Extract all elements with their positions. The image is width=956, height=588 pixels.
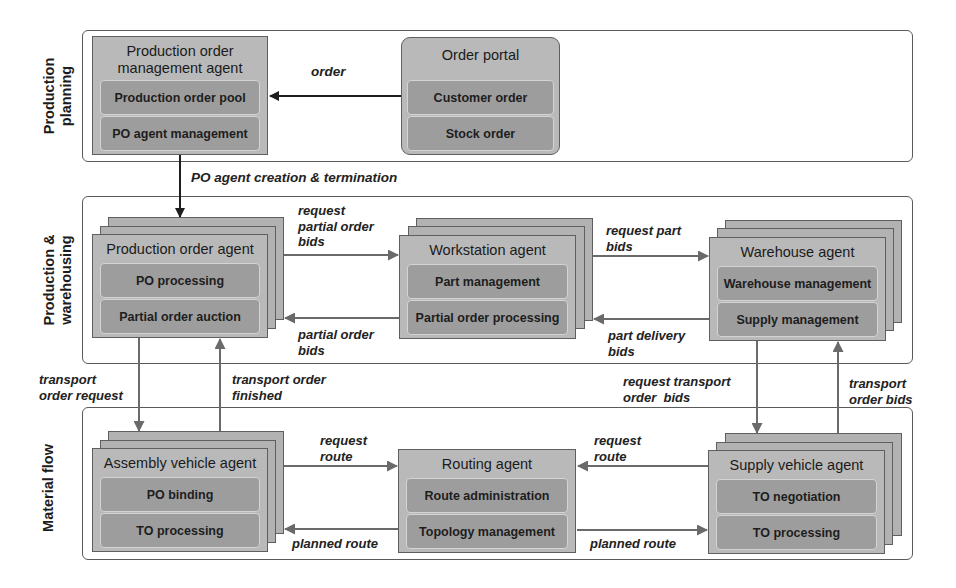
flow-label-line: bids xyxy=(608,344,685,360)
flow-label-line: order request xyxy=(39,388,123,404)
flow-label-request-route-left: request route xyxy=(320,433,367,464)
flow-label-line: order xyxy=(311,64,346,80)
flow-label-line: request xyxy=(298,203,374,219)
flow-label-planned-route-right: planned route xyxy=(590,536,676,552)
flow-label-partial-order-bids: partial order bids xyxy=(298,327,374,358)
flow-label-part-delivery-bids: part delivery bids xyxy=(608,328,685,359)
flow-label-line: part delivery xyxy=(608,328,685,344)
flow-label-line: PO agent creation & termination xyxy=(191,170,397,186)
flow-label-request-transport-order-bids: request transport order bids xyxy=(623,374,731,405)
flow-label-transport-order-finished: transport order finished xyxy=(232,372,326,403)
flow-label-transport-order-bids: transport order bids xyxy=(849,376,913,407)
flow-label-line: request xyxy=(320,433,367,449)
flow-label-line: transport order xyxy=(232,372,326,388)
flow-label-line: request part xyxy=(606,223,681,239)
flow-label-line: order bids xyxy=(623,390,731,406)
flow-label-transport-order-request: transport order request xyxy=(39,372,123,403)
flow-label-line: finished xyxy=(232,388,326,404)
flow-label-line: request transport xyxy=(623,374,731,390)
flow-label-request-partial-order-bids: request partial order bids xyxy=(298,203,374,250)
flow-label-line: bids xyxy=(298,343,374,359)
flow-label-line: planned route xyxy=(590,536,676,552)
flow-label-request-route-right: request route xyxy=(594,433,641,464)
flow-label-line: partial order xyxy=(298,327,374,343)
flow-label-line: transport xyxy=(39,372,123,388)
flow-label-line: order bids xyxy=(849,392,913,408)
flow-label-request-part-bids: request part bids xyxy=(606,223,681,254)
flow-label-line: bids xyxy=(606,239,681,255)
flow-label-line: route xyxy=(320,449,367,465)
flow-label-line: request xyxy=(594,433,641,449)
flow-label-order: order xyxy=(311,64,346,80)
flow-label-line: bids xyxy=(298,234,374,250)
flow-arrows xyxy=(0,0,956,588)
flow-label-line: planned route xyxy=(292,536,378,552)
flow-label-po-agent-creation: PO agent creation & termination xyxy=(191,170,397,186)
flow-label-line: route xyxy=(594,449,641,465)
flow-label-line: transport xyxy=(849,376,913,392)
flow-label-line: partial order xyxy=(298,219,374,235)
flow-label-planned-route-left: planned route xyxy=(292,536,378,552)
